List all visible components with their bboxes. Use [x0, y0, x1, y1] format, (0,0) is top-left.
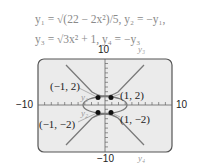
point-label-neg1-2: (−1, 2)	[50, 80, 80, 92]
curve-label-y1: y₁	[81, 92, 88, 102]
point-neg1-2	[96, 95, 101, 100]
point-1-neg2	[109, 110, 114, 115]
point-label-1-neg2: (1, −2)	[120, 113, 150, 125]
graph	[0, 0, 197, 165]
point-label-neg1-neg2: (−1, −2)	[39, 118, 75, 130]
x-min-label: −10	[16, 99, 33, 110]
point-label-1-2: (1, 2)	[120, 89, 144, 101]
curve-label-y2: y₂	[81, 108, 88, 118]
curve-label-y4: y₄	[138, 153, 145, 163]
x-max-label: 10	[176, 99, 187, 110]
point-neg1-neg2	[96, 110, 101, 115]
point-1-2	[109, 95, 114, 100]
curve-label-y3: y₃	[138, 44, 145, 54]
y-min-label: −10	[97, 153, 114, 164]
y-max-label: 10	[98, 44, 109, 55]
